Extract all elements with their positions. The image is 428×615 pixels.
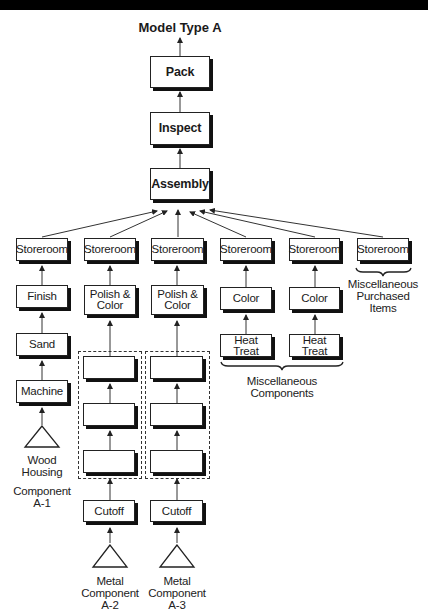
metal-component-a2-label: Metal Component A-2: [78, 575, 142, 611]
color-m2-box: Color: [289, 287, 340, 310]
heat-treat-m2-box: Heat Treat: [289, 334, 340, 357]
raw-material-triangle-a1: [25, 426, 59, 447]
cutoff-a3-box: Cutoff: [150, 500, 203, 522]
cutoff-a2-box: Cutoff: [83, 500, 135, 522]
storeroom-p1: Storeroom: [357, 238, 409, 261]
raw-material-triangle-a3: [160, 545, 194, 567]
operation-a2-3: [83, 450, 135, 473]
operation-a2-2: [83, 403, 135, 426]
sand-box: Sand: [16, 333, 68, 356]
operation-a3-1: [150, 356, 203, 379]
raw-material-triangle-a2: [93, 545, 127, 567]
metal-component-a3-label: Metal Component A-3: [145, 575, 209, 611]
storeroom-a1: Storeroom: [16, 238, 68, 261]
storeroom-m1: Storeroom: [220, 238, 272, 261]
storeroom-a3: Storeroom: [151, 238, 204, 261]
model-type-title: Model Type A: [130, 20, 230, 35]
polish-color-a3-box: Polish & Color: [151, 285, 204, 315]
polish-color-a2-box: Polish & Color: [84, 285, 136, 315]
operation-a2-1: [83, 356, 135, 379]
heat-treat-m1-box: Heat Treat: [220, 334, 272, 357]
pack-box: Pack: [150, 56, 210, 88]
storeroom-a2: Storeroom: [84, 238, 136, 261]
wood-housing-label: Wood Housing: [12, 454, 72, 478]
misc-purchased-label: Miscellaneous Purchased Items: [343, 278, 423, 314]
operation-a3-3: [150, 450, 203, 473]
operation-a3-2: [150, 403, 203, 426]
machine-box: Machine: [16, 380, 68, 403]
misc-components-label: Miscellaneous Components: [240, 375, 324, 399]
component-a1-label: Component A-1: [10, 485, 74, 509]
storeroom-m2: Storeroom: [289, 238, 340, 261]
assembly-box: Assembly: [150, 168, 210, 200]
inspect-box: Inspect: [150, 112, 210, 145]
color-m1-box: Color: [220, 287, 272, 310]
finish-box: Finish: [16, 285, 68, 308]
